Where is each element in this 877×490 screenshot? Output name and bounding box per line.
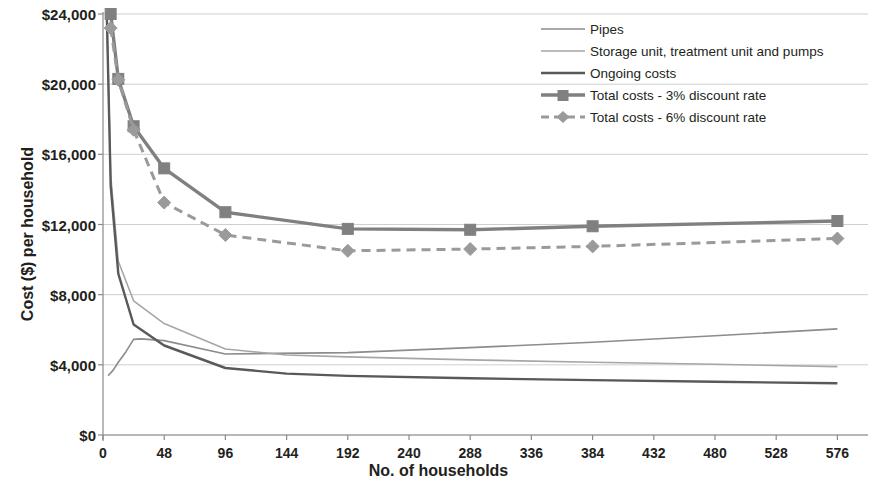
legend-item: Pipes xyxy=(540,18,870,40)
legend-key-icon xyxy=(540,66,586,80)
x-tick-label: 144 xyxy=(275,445,298,461)
series-line-0 xyxy=(108,329,837,376)
legend-label: Storage unit, treatment unit and pumps xyxy=(590,44,823,59)
x-tick-label: 0 xyxy=(99,445,107,461)
series-marker-square xyxy=(342,223,353,234)
series-marker-square xyxy=(159,163,170,174)
x-tick-label: 192 xyxy=(336,445,359,461)
legend-item: Total costs - 6% discount rate xyxy=(540,106,870,128)
legend-key-icon xyxy=(540,110,586,124)
legend-label: Ongoing costs xyxy=(590,66,676,81)
series-marker-diamond xyxy=(831,232,844,245)
legend-item: Ongoing costs xyxy=(540,62,870,84)
series-marker-diamond xyxy=(341,244,354,257)
chart-container: $0$4,000$8,000$12,000$16,000$20,000$24,0… xyxy=(0,0,877,490)
legend-item: Storage unit, treatment unit and pumps xyxy=(540,40,870,62)
legend-label: Total costs - 6% discount rate xyxy=(590,110,766,125)
x-tick-label: 288 xyxy=(459,445,482,461)
chart-legend: PipesStorage unit, treatment unit and pu… xyxy=(540,18,870,128)
series-marker-diamond xyxy=(219,229,232,242)
legend-key-icon xyxy=(540,44,586,58)
x-tick-label: 384 xyxy=(581,445,604,461)
legend-marker-diamond xyxy=(557,111,570,123)
x-tick-label: 528 xyxy=(765,445,788,461)
series-marker-square xyxy=(105,9,116,20)
legend-label: Total costs - 3% discount rate xyxy=(590,88,766,103)
series-marker-square xyxy=(465,224,476,235)
legend-item: Total costs - 3% discount rate xyxy=(540,84,870,106)
x-tick-label: 96 xyxy=(218,445,234,461)
series-marker-square xyxy=(220,207,231,218)
x-tick-label: 240 xyxy=(397,445,420,461)
legend-key-icon xyxy=(540,22,586,36)
series-marker-diamond xyxy=(464,243,477,256)
legend-marker-square xyxy=(558,90,569,101)
x-tick-label: 48 xyxy=(156,445,172,461)
x-tick-label: 576 xyxy=(826,445,849,461)
legend-label: Pipes xyxy=(590,22,624,37)
x-tick-label: 480 xyxy=(703,445,726,461)
series-marker-diamond xyxy=(158,196,171,209)
x-tick-label: 336 xyxy=(520,445,543,461)
series-marker-square xyxy=(587,221,598,232)
series-marker-square xyxy=(832,215,843,226)
series-marker-diamond xyxy=(586,240,599,253)
legend-key-icon xyxy=(540,88,586,102)
x-tick-label: 432 xyxy=(642,445,665,461)
